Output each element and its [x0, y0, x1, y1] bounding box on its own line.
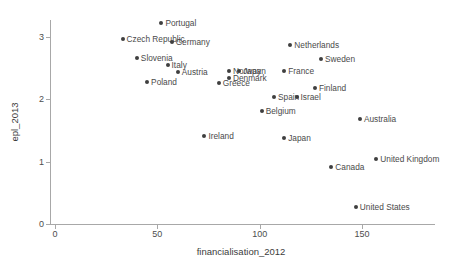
point-marker — [217, 81, 221, 85]
point-marker — [121, 37, 125, 41]
y-axis-title: epl_2013 — [9, 102, 20, 141]
point-marker — [288, 43, 292, 47]
x-tick-label: 150 — [354, 229, 369, 239]
y-tick-mark — [46, 224, 50, 225]
point-label: Poland — [151, 77, 177, 87]
point-marker — [260, 109, 264, 113]
scatter-plot: 0501001500123 PortugalCzech RepublicGerm… — [0, 0, 449, 271]
point-marker — [145, 80, 149, 84]
x-tick-label: 0 — [52, 229, 57, 239]
point-marker — [159, 21, 163, 25]
point-marker — [176, 70, 180, 74]
point-marker — [295, 95, 299, 99]
point-marker — [202, 134, 206, 138]
point-label: Japan — [288, 133, 311, 143]
point-label: Netherlands — [294, 40, 339, 50]
point-label: United Kingdom — [380, 154, 439, 164]
x-axis-line — [50, 224, 435, 225]
point-marker — [319, 57, 323, 61]
point-marker — [227, 69, 231, 73]
point-marker — [313, 86, 317, 90]
point-label: Portugal — [165, 18, 196, 28]
point-marker — [354, 205, 358, 209]
point-marker — [272, 95, 276, 99]
point-label: Israel — [301, 92, 321, 102]
point-marker — [135, 56, 139, 60]
point-marker — [374, 157, 378, 161]
point-label: United States — [360, 202, 410, 212]
point-marker — [329, 165, 333, 169]
point-marker — [358, 117, 362, 121]
point-marker — [282, 69, 286, 73]
point-label: Canada — [335, 162, 364, 172]
point-label: Greece — [223, 78, 250, 88]
point-label: Ireland — [208, 131, 233, 141]
y-tick-mark — [46, 99, 50, 100]
point-label: Australia — [364, 114, 396, 124]
x-tick-label: 100 — [252, 229, 267, 239]
point-marker — [166, 63, 170, 67]
x-axis-title: financialisation_2012 — [197, 246, 286, 257]
y-tick-mark — [46, 162, 50, 163]
x-tick-label: 50 — [152, 229, 162, 239]
y-tick-mark — [46, 37, 50, 38]
y-tick-label: 3 — [39, 32, 44, 42]
point-label: Austria — [182, 67, 208, 77]
y-tick-label: 1 — [39, 157, 44, 167]
point-label: Finland — [319, 83, 346, 93]
point-marker — [237, 69, 241, 73]
y-axis-line — [50, 20, 51, 225]
y-tick-label: 2 — [39, 94, 44, 104]
point-label: Slovenia — [141, 53, 173, 63]
point-label: Belgium — [266, 106, 296, 116]
point-marker — [282, 136, 286, 140]
point-label: Sweden — [325, 54, 355, 64]
point-label: Germany — [176, 37, 210, 47]
point-marker — [170, 40, 174, 44]
y-tick-label: 0 — [39, 219, 44, 229]
point-label: France — [288, 66, 314, 76]
